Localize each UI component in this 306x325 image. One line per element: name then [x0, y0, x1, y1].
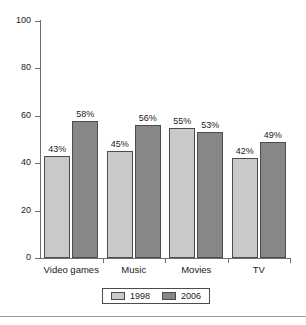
bar-value-label: 53%: [201, 120, 219, 131]
category-label-video-games: Video games: [44, 264, 99, 276]
plot-area: 43%58%45%56%55%53%42%49%: [40, 21, 292, 258]
bar-music-1998: 45%: [107, 151, 133, 258]
y-tick-label: 60: [0, 110, 31, 121]
bar-movies-1998: 55%: [169, 128, 195, 258]
bottom-divider: [0, 316, 306, 317]
y-tick-label: 20: [0, 205, 31, 216]
bar-video-games-1998: 43%: [44, 156, 70, 258]
bar-movies-2006: 53%: [197, 132, 223, 258]
bar-value-label: 45%: [111, 139, 129, 150]
bar-value-label: 56%: [139, 113, 157, 124]
bar-value-label: 49%: [264, 130, 282, 141]
bar-value-label: 43%: [48, 144, 66, 155]
legend-item-2006: 2006: [162, 291, 201, 302]
category-label-tv: TV: [253, 264, 265, 276]
legend-item-1998: 1998: [111, 291, 150, 302]
bar-tv-2006: 49%: [260, 142, 286, 258]
x-tick-mark: [290, 258, 291, 263]
category-label-movies: Movies: [181, 264, 211, 276]
bar-chart: 100806040200 43%58%45%56%55%53%42%49% Vi…: [0, 0, 306, 325]
x-tick-mark: [165, 258, 166, 263]
legend-swatch-2006: [162, 292, 176, 300]
y-tick-label: 0: [0, 252, 31, 263]
bar-tv-1998: 42%: [232, 158, 258, 258]
legend-label-2006: 2006: [181, 291, 201, 302]
y-tick-label: 80: [0, 62, 31, 73]
y-tick-label: 100: [0, 15, 31, 26]
bar-music-2006: 56%: [135, 125, 161, 258]
bar-value-label: 55%: [173, 116, 191, 127]
category-label-music: Music: [121, 264, 146, 276]
legend-label-1998: 1998: [130, 291, 150, 302]
bar-value-label: 58%: [76, 109, 94, 120]
chart-legend: 19982006: [102, 288, 210, 304]
legend-swatch-1998: [111, 292, 125, 300]
x-tick-mark: [103, 258, 104, 263]
bar-video-games-2006: 58%: [72, 121, 98, 258]
y-tick-label: 40: [0, 157, 31, 168]
x-tick-mark: [228, 258, 229, 263]
y-tick-mark: [35, 258, 40, 259]
bar-value-label: 42%: [236, 146, 254, 157]
